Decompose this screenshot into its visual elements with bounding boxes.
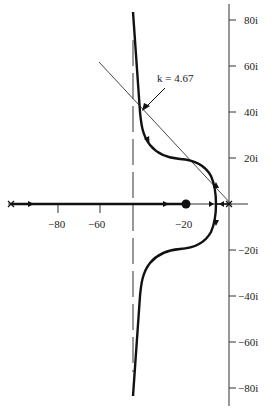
- x-tick-label-m60: −60: [88, 218, 106, 230]
- lower-branch-locus: [133, 204, 216, 396]
- x-ticks: [58, 204, 100, 213]
- y-tick-label-80: 80i: [244, 14, 258, 26]
- x-tick-label-m80: −80: [48, 218, 66, 230]
- y-tick-label-40: 40i: [244, 106, 258, 118]
- y-tick-label-m20: −20i: [238, 244, 258, 256]
- x-tick-label-m20: −20: [175, 218, 193, 230]
- gain-annotation: k = 4.67: [157, 72, 194, 84]
- y-tick-label-m40: −40i: [238, 290, 258, 302]
- y-tick-label-m60: −60i: [238, 336, 258, 348]
- y-tick-label-m80: −80i: [238, 382, 258, 394]
- zero-marker-icon: [182, 200, 191, 209]
- y-tick-label-20: 20i: [244, 152, 258, 164]
- root-locus-plot: 80i 60i 40i 20i −20i −40i −60i −80i −80 …: [0, 0, 277, 408]
- direction-arrow-icons: [28, 136, 224, 226]
- y-tick-label-60: 60i: [244, 60, 258, 72]
